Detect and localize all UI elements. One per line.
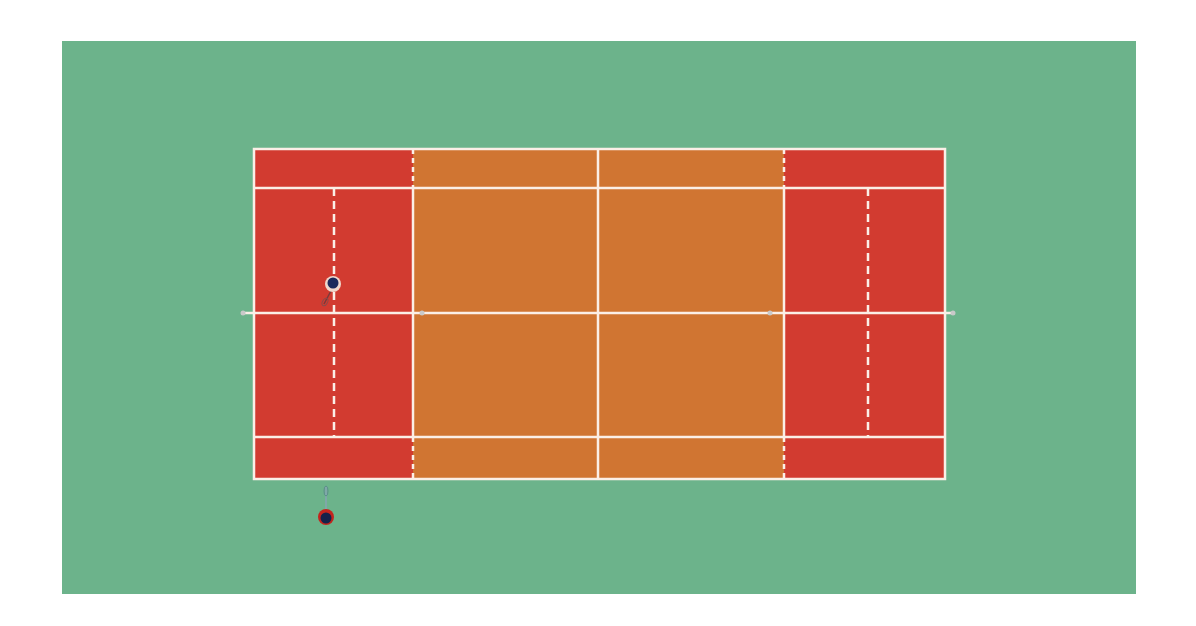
net-post-2 [951, 311, 956, 316]
player-head-icon [328, 278, 339, 289]
center-mark-1 [420, 311, 425, 316]
player-head-icon [321, 513, 332, 524]
tennis-court [241, 149, 956, 479]
tennis-scene [0, 0, 1196, 626]
center-mark-2 [768, 311, 773, 316]
net-post-1 [241, 311, 246, 316]
